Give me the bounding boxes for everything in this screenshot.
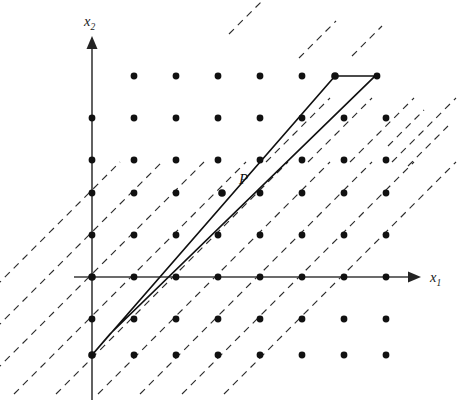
lattice-point xyxy=(218,189,226,197)
lattice-point xyxy=(173,232,180,239)
lattice-point xyxy=(257,274,264,281)
lattice-point xyxy=(215,352,222,359)
lattice-point xyxy=(131,73,138,80)
lattice-point xyxy=(215,316,222,323)
lattice-point xyxy=(131,232,138,239)
lattice-point xyxy=(299,73,306,80)
dashed-hyperplane-stub xyxy=(299,21,336,58)
lattice-point xyxy=(341,274,348,281)
lattice-point xyxy=(299,232,306,239)
dashed-hyperplane-stub xyxy=(352,26,382,56)
lattice-point xyxy=(299,352,306,359)
lattice-point xyxy=(331,72,339,80)
y-axis-arrowhead xyxy=(87,36,98,49)
lattice-point xyxy=(215,115,222,122)
dashed-hyperplane-stub xyxy=(408,126,448,166)
lattice-point xyxy=(215,232,222,239)
lattice-point xyxy=(173,316,180,323)
lattice-point xyxy=(173,157,180,164)
polytope-label-P: P xyxy=(239,172,248,187)
lattice-point xyxy=(131,190,138,197)
lattice-point xyxy=(89,190,96,197)
lattice-point xyxy=(257,190,264,197)
lattice-point xyxy=(383,190,390,197)
dashed-hyperplane xyxy=(350,98,414,162)
dashed-hyperplane-family xyxy=(0,0,456,394)
lattice-point xyxy=(131,157,138,164)
dashed-hyperplane xyxy=(392,98,456,162)
lattice-point xyxy=(299,190,306,197)
lattice-point xyxy=(299,274,306,281)
lattice-point xyxy=(89,157,96,164)
lattice-point xyxy=(131,352,138,359)
lattice-point xyxy=(383,316,390,323)
lattice-point xyxy=(341,352,348,359)
lattice-point xyxy=(131,316,138,323)
lattice-point xyxy=(341,157,348,164)
lattice-point xyxy=(173,352,180,359)
lattice-point xyxy=(173,115,180,122)
lattice-point xyxy=(341,115,348,122)
lattice-point-origin xyxy=(88,273,96,281)
lattice-point xyxy=(383,157,390,164)
dashed-hyperplane-stub xyxy=(388,110,424,146)
lattice-point xyxy=(173,190,180,197)
lattice-point xyxy=(215,274,222,281)
lattice-point xyxy=(173,73,180,80)
y-axis-label: x2 xyxy=(84,14,95,32)
lattice-point xyxy=(341,316,348,323)
lattice-point xyxy=(299,115,306,122)
dashed-hyperplane xyxy=(0,162,120,286)
lattice-polytope-figure: x1 x2 P xyxy=(0,0,460,410)
dashed-hyperplane xyxy=(308,98,372,162)
lattice-point xyxy=(131,274,138,281)
lattice-point xyxy=(257,115,264,122)
lattice-point xyxy=(89,232,96,239)
lattice-point xyxy=(215,73,222,80)
lattice-point xyxy=(257,157,264,164)
lattice-point xyxy=(257,73,264,80)
lattice-point xyxy=(383,115,390,122)
lattice-point xyxy=(299,316,306,323)
lattice-point xyxy=(89,115,96,122)
lattice-point xyxy=(383,274,390,281)
lattice-point xyxy=(383,352,390,359)
lattice-point xyxy=(299,157,306,164)
dashed-hyperplane xyxy=(14,162,246,394)
diagram-canvas xyxy=(0,0,460,410)
x-axis-arrowhead xyxy=(408,272,421,283)
lattice-point xyxy=(88,351,96,359)
lattice-point xyxy=(341,232,348,239)
lattice-point xyxy=(257,352,264,359)
lattice-point xyxy=(374,73,381,80)
lattice-point xyxy=(215,157,222,164)
lattice-point xyxy=(131,115,138,122)
lattice-point-grid xyxy=(88,72,389,359)
lattice-point xyxy=(173,274,180,281)
lattice-point xyxy=(89,316,96,323)
lattice-point xyxy=(257,232,264,239)
dashed-hyperplane-stub xyxy=(229,0,266,34)
coordinate-axes xyxy=(74,36,421,400)
x-axis-label: x1 xyxy=(430,270,441,288)
lattice-point xyxy=(383,232,390,239)
lattice-point xyxy=(341,190,348,197)
lattice-point xyxy=(257,316,264,323)
